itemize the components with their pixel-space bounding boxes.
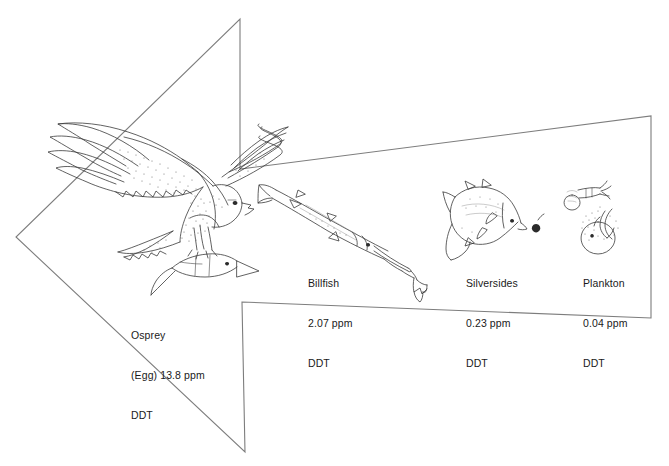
label-billfish-name: Billfish — [308, 277, 353, 290]
label-silversides-concentration: 0.23 ppm — [466, 317, 518, 330]
label-billfish-chemical: DDT — [308, 357, 353, 370]
plankton-figure — [564, 181, 619, 254]
label-billfish-concentration: 2.07 ppm — [308, 317, 353, 330]
label-plankton-concentration: 0.04 ppm — [583, 317, 628, 330]
label-plankton: Plankton 0.04 ppm DDT — [583, 251, 628, 396]
biomagnification-diagram: Osprey (Egg) 13.8 ppm DDT Billfish 2.07 … — [0, 0, 669, 466]
label-plankton-name: Plankton — [583, 277, 628, 290]
label-osprey: Osprey (Egg) 13.8 ppm DDT — [131, 303, 205, 448]
plankton-diatom — [581, 206, 619, 254]
label-osprey-name: Osprey — [131, 329, 205, 342]
label-plankton-chemical: DDT — [583, 357, 628, 370]
label-osprey-chemical: DDT — [131, 409, 205, 422]
plankton-copepod — [564, 181, 611, 210]
label-silversides: Silversides 0.23 ppm DDT — [466, 251, 518, 396]
label-silversides-chemical: DDT — [466, 357, 518, 370]
label-billfish: Billfish 2.07 ppm DDT — [308, 251, 353, 396]
label-osprey-concentration: (Egg) 13.8 ppm — [131, 369, 205, 382]
label-silversides-name: Silversides — [466, 277, 518, 290]
